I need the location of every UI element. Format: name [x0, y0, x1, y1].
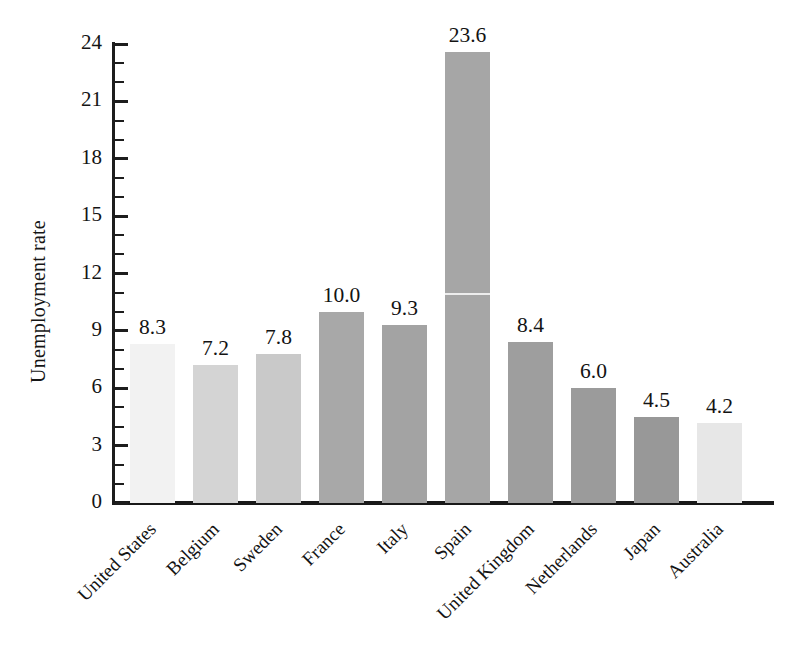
bar	[571, 388, 616, 503]
y-tick-major	[115, 502, 128, 505]
bar	[193, 365, 238, 503]
bar	[697, 423, 742, 503]
bar-value-label: 9.3	[368, 296, 441, 321]
y-tick-label: 15	[54, 202, 102, 227]
y-tick-label: 3	[54, 432, 102, 457]
bar	[445, 52, 490, 503]
y-tick-label: 24	[54, 30, 102, 55]
y-tick-minor	[115, 196, 124, 198]
y-tick-minor	[115, 253, 124, 255]
bar	[256, 354, 301, 503]
y-tick-label: 9	[54, 317, 102, 342]
y-tick-minor	[115, 426, 124, 428]
bar-value-label: 4.2	[683, 394, 756, 419]
bar-chart: Unemployment rate 03691215182124 8.37.27…	[0, 0, 785, 665]
y-tick-major	[115, 100, 128, 103]
bar	[382, 325, 427, 503]
y-tick-label: 18	[54, 145, 102, 170]
y-tick-minor	[115, 406, 124, 408]
bar	[508, 342, 553, 503]
y-tick-minor	[115, 177, 124, 179]
y-tick-major	[115, 215, 128, 218]
bar-value-label: 6.0	[557, 359, 630, 384]
y-tick-minor	[115, 349, 124, 351]
y-tick-minor	[115, 311, 124, 313]
bar	[130, 344, 175, 503]
bar-value-label: 7.8	[242, 325, 315, 350]
bar-value-label: 8.4	[494, 313, 567, 338]
y-tick-minor	[115, 483, 124, 485]
y-tick-major	[115, 157, 128, 160]
y-tick-major	[115, 272, 128, 275]
bar	[634, 417, 679, 503]
y-tick-label: 6	[54, 374, 102, 399]
y-tick-label: 0	[54, 489, 102, 514]
y-tick-major	[115, 387, 128, 390]
y-tick-minor	[115, 464, 124, 466]
y-tick-minor	[115, 234, 124, 236]
y-tick-label: 12	[54, 260, 102, 285]
y-tick-minor	[115, 139, 124, 141]
y-tick-minor	[115, 120, 124, 122]
y-axis-title: Unemployment rate	[27, 192, 50, 412]
bar	[319, 312, 364, 503]
y-tick-minor	[115, 81, 124, 83]
y-tick-minor	[115, 62, 124, 64]
bar-value-label: 23.6	[431, 23, 504, 48]
y-tick-minor	[115, 368, 124, 370]
y-tick-major	[115, 43, 128, 46]
y-tick-label: 21	[54, 87, 102, 112]
y-tick-major	[115, 444, 128, 447]
y-tick-minor	[115, 292, 124, 294]
